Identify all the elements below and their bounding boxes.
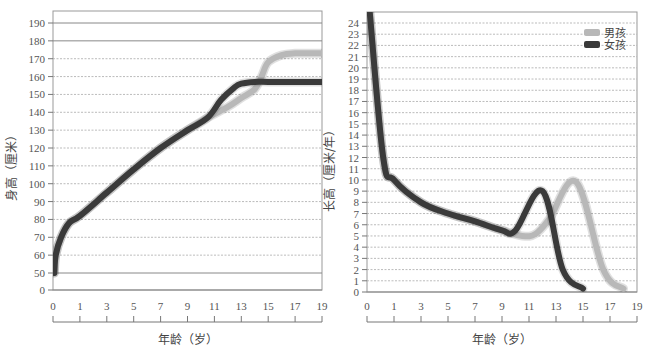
y-tick-label: 20 [348, 62, 360, 74]
y-tick-label: 24 [348, 17, 360, 29]
y-tick-label: 6 [354, 219, 360, 231]
y-axis-title: 长高（厘米/年） [322, 124, 337, 212]
y-tick-label: 190 [29, 17, 46, 29]
height-chart: 0506070809010011012013014015016017018019… [4, 11, 328, 347]
x-tick-label: 0 [364, 300, 370, 312]
y-tick-label: 16 [348, 107, 360, 119]
y-tick-label: 22 [348, 39, 359, 51]
x-tick-label: 17 [290, 300, 302, 312]
y-tick-label: 11 [348, 163, 359, 175]
x-tick-label: 7 [158, 300, 164, 312]
y-tick-label: 8 [354, 196, 360, 208]
y-tick-label: 140 [29, 106, 46, 118]
y-tick-label: 2 [354, 264, 360, 276]
y-tick-label: 12 [348, 152, 359, 164]
x-tick-label: 5 [445, 300, 451, 312]
x-tick-label: 9 [499, 300, 505, 312]
growth-rate-chart: 0123456789101112131415161718192021222324… [322, 12, 643, 347]
y-tick-label: 150 [29, 88, 46, 100]
x-tick-label: 9 [185, 300, 191, 312]
x-tick-label: 0 [50, 300, 56, 312]
y-tick-label: 3 [354, 252, 360, 264]
y-tick-label: 180 [29, 35, 46, 47]
legend-swatch-girl [584, 41, 600, 48]
y-tick-label: 21 [348, 51, 359, 63]
y-tick-label: 170 [29, 53, 46, 65]
y-tick-label: 14 [348, 129, 360, 141]
x-tick-label: 7 [472, 300, 478, 312]
y-tick-label: 0 [40, 284, 46, 296]
y-tick-label: 23 [348, 28, 360, 40]
x-tick-label: 5 [131, 300, 137, 312]
y-tick-label: 120 [29, 142, 46, 154]
y-tick-label: 110 [29, 160, 46, 172]
x-tick-label: 13 [236, 300, 248, 312]
x-tick-label: 1 [77, 300, 83, 312]
y-tick-label: 50 [34, 267, 46, 279]
x-tick-label: 13 [551, 300, 563, 312]
y-tick-label: 160 [29, 71, 46, 83]
y-tick-label: 70 [34, 231, 46, 243]
y-tick-label: 4 [354, 241, 360, 253]
x-tick-label: 17 [605, 300, 617, 312]
y-tick-label: 90 [34, 196, 46, 208]
x-tick-label: 19 [317, 300, 329, 312]
y-tick-label: 130 [29, 124, 46, 136]
x-axis-title: 年龄（岁） [158, 332, 218, 347]
y-tick-label: 80 [34, 213, 46, 225]
y-axis-title: 身高（厘米） [4, 129, 19, 201]
legend-swatch-boy [584, 29, 600, 36]
legend-label-girl: 女孩 [604, 38, 626, 52]
x-axis-title: 年龄（岁） [472, 332, 532, 347]
x-tick-label: 11 [524, 300, 535, 312]
x-tick-label: 3 [418, 300, 424, 312]
y-tick-label: 9 [354, 185, 360, 197]
y-tick-label: 15 [348, 118, 360, 130]
x-tick-label: 19 [632, 300, 644, 312]
x-tick-label: 1 [391, 300, 397, 312]
x-tick-label: 15 [578, 300, 590, 312]
y-tick-label: 0 [354, 286, 360, 298]
x-tick-label: 11 [209, 300, 220, 312]
y-tick-label: 18 [348, 84, 360, 96]
x-tick-label: 15 [263, 300, 275, 312]
y-tick-label: 7 [354, 208, 360, 220]
y-tick-label: 17 [348, 95, 360, 107]
y-tick-label: 19 [348, 73, 360, 85]
y-tick-label: 60 [34, 249, 46, 261]
y-tick-label: 13 [348, 140, 360, 152]
y-tick-label: 100 [29, 178, 46, 190]
y-tick-label: 5 [354, 230, 360, 242]
y-tick-label: 1 [354, 275, 360, 287]
y-tick-label: 10 [348, 174, 360, 186]
x-tick-label: 3 [104, 300, 110, 312]
charts-canvas: 0506070809010011012013014015016017018019… [0, 0, 650, 353]
